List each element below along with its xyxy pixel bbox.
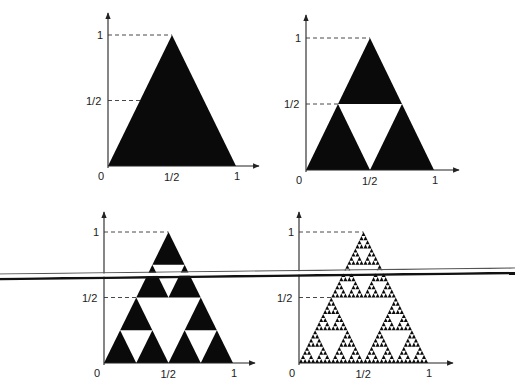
filled-triangle bbox=[370, 347, 374, 351]
filled-triangle bbox=[418, 347, 422, 351]
filled-triangle bbox=[315, 343, 319, 347]
filled-triangle bbox=[404, 318, 408, 322]
filled-triangle bbox=[392, 326, 396, 330]
filled-triangle bbox=[201, 330, 233, 363]
filled-triangle bbox=[370, 281, 374, 285]
filled-triangle bbox=[341, 289, 345, 293]
filled-triangle bbox=[400, 318, 404, 322]
filled-triangle bbox=[364, 244, 368, 248]
label-y-one: 1 bbox=[93, 226, 99, 238]
filled-triangle bbox=[359, 359, 363, 363]
filled-triangle bbox=[359, 236, 363, 240]
filled-triangle bbox=[343, 343, 347, 347]
label-y-half: 1/2 bbox=[86, 95, 101, 107]
filled-triangle bbox=[388, 318, 392, 322]
filled-triangle bbox=[325, 306, 329, 310]
filled-triangle bbox=[394, 298, 398, 302]
filled-triangle bbox=[412, 334, 416, 338]
filled-triangle bbox=[339, 359, 343, 363]
filled-triangle bbox=[392, 310, 396, 314]
filled-triangle bbox=[309, 355, 313, 359]
filled-triangle bbox=[382, 322, 386, 326]
filled-triangle bbox=[386, 314, 390, 318]
filled-triangle bbox=[376, 293, 380, 297]
filled-triangle bbox=[380, 359, 384, 363]
filled-triangle bbox=[384, 359, 388, 363]
filled-triangle bbox=[335, 318, 339, 322]
filled-triangle bbox=[319, 326, 323, 330]
filled-triangle bbox=[338, 38, 402, 104]
filled-triangle bbox=[404, 351, 408, 355]
filled-triangle bbox=[347, 293, 351, 297]
filled-triangle bbox=[398, 355, 402, 359]
filled-triangle bbox=[416, 359, 420, 363]
filled-triangle bbox=[400, 351, 404, 355]
filled-triangle bbox=[374, 257, 378, 261]
filled-triangle bbox=[420, 351, 424, 355]
filled-triangle bbox=[329, 298, 333, 302]
filled-triangle bbox=[420, 359, 424, 363]
panel-stage-2: 01/211/21 bbox=[82, 212, 255, 380]
filled-triangle bbox=[408, 343, 412, 347]
filled-triangle bbox=[335, 293, 339, 297]
filled-triangle bbox=[378, 330, 382, 334]
panel-stage-1: 01/211/21 bbox=[284, 15, 459, 187]
filled-triangle bbox=[376, 261, 380, 265]
filled-triangle bbox=[386, 347, 390, 351]
filled-triangle bbox=[339, 285, 343, 289]
filled-triangle bbox=[333, 289, 337, 293]
filled-triangle bbox=[404, 326, 408, 330]
filled-triangle bbox=[382, 355, 386, 359]
filled-triangle bbox=[386, 281, 390, 285]
filled-triangle bbox=[339, 343, 343, 347]
filled-triangle bbox=[323, 318, 327, 322]
label-y-half: 1/2 bbox=[284, 98, 299, 110]
filled-triangle bbox=[343, 293, 347, 297]
filled-triangle bbox=[319, 351, 323, 355]
label-x-half: 1/2 bbox=[362, 175, 377, 187]
filled-triangle bbox=[333, 355, 337, 359]
sierpinski-shape bbox=[108, 35, 236, 166]
filled-triangle bbox=[311, 359, 315, 363]
filled-triangle bbox=[366, 240, 370, 244]
filled-triangle bbox=[406, 322, 410, 326]
filled-triangle bbox=[351, 252, 355, 256]
filled-triangle bbox=[368, 293, 372, 297]
label-y-one: 1 bbox=[288, 226, 294, 238]
filled-triangle bbox=[335, 310, 339, 314]
filled-triangle bbox=[368, 252, 372, 256]
filled-triangle bbox=[351, 293, 355, 297]
filled-triangle bbox=[309, 338, 313, 342]
filled-triangle bbox=[357, 257, 361, 261]
filled-triangle bbox=[412, 343, 416, 347]
filled-triangle bbox=[384, 326, 388, 330]
filled-triangle bbox=[339, 277, 343, 281]
filled-triangle bbox=[311, 334, 315, 338]
filled-triangle bbox=[374, 289, 378, 293]
label-origin: 0 bbox=[98, 170, 104, 182]
filled-triangle bbox=[323, 310, 327, 314]
filled-triangle bbox=[341, 322, 345, 326]
filled-triangle bbox=[321, 314, 325, 318]
filled-triangle bbox=[341, 338, 345, 342]
filled-triangle bbox=[315, 359, 319, 363]
panel-stage-5: 01/211/21 bbox=[277, 212, 453, 380]
filled-triangle bbox=[349, 355, 353, 359]
filled-triangle bbox=[335, 359, 339, 363]
filled-triangle bbox=[351, 261, 355, 265]
filled-triangle bbox=[307, 351, 311, 355]
filled-triangle bbox=[404, 359, 408, 363]
filled-triangle bbox=[424, 359, 428, 363]
filled-triangle bbox=[351, 343, 355, 347]
label-x-one: 1 bbox=[231, 367, 237, 379]
filled-triangle bbox=[315, 326, 319, 330]
label-x-one: 1 bbox=[234, 170, 240, 182]
filled-triangle bbox=[366, 355, 370, 359]
filled-triangle bbox=[325, 322, 329, 326]
label-y-half: 1/2 bbox=[82, 292, 97, 304]
filled-triangle bbox=[311, 343, 315, 347]
filled-triangle bbox=[333, 322, 337, 326]
filled-triangle bbox=[351, 285, 355, 289]
filled-triangle bbox=[412, 359, 416, 363]
filled-triangle bbox=[390, 289, 394, 293]
